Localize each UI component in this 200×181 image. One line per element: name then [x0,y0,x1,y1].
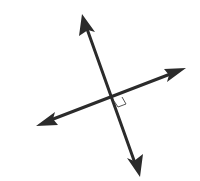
line-a-arrowhead-bottom [127,154,143,177]
perpendicular-lines-diagram [0,0,200,181]
line-b [36,68,186,126]
line-b-shaft [48,73,173,121]
